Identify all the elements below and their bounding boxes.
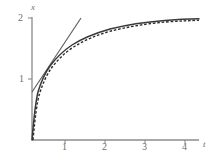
- y-axis-label: x: [31, 3, 35, 12]
- tangent-line: [32, 18, 81, 92]
- plot-figure: 2 1 1 2 3 4 x t: [0, 0, 219, 158]
- x-axis-label: t: [203, 140, 206, 149]
- x-tick-label-4: 4: [182, 142, 187, 152]
- plot-canvas: [0, 0, 219, 158]
- y-tick-label-2: 2: [18, 13, 23, 23]
- axes-group: [28, 17, 199, 144]
- x-tick-label-1: 1: [62, 142, 67, 152]
- y-tick-label-1: 1: [19, 74, 24, 84]
- x-tick-label-2: 2: [102, 142, 107, 152]
- solution-curve: [32, 19, 199, 140]
- approximation-curve: [33, 20, 199, 140]
- x-tick-label-3: 3: [142, 142, 147, 152]
